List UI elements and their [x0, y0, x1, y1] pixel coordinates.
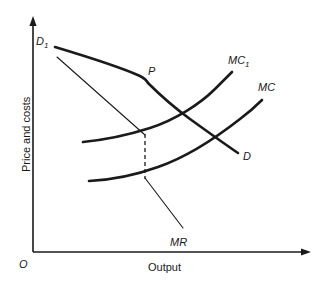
curve-label-d1-text: D	[36, 35, 44, 47]
curve-label-mc1: MC1	[228, 55, 250, 69]
x-axis-title: Output	[148, 262, 181, 273]
point-label-p: P	[148, 66, 155, 77]
demand-lower-curve	[148, 83, 238, 153]
curve-label-d1-subscript: 1	[44, 41, 48, 50]
x-axis-arrow-icon	[301, 248, 311, 255]
demand-upper-curve	[55, 47, 148, 83]
curve-label-mc1-subscript: 1	[245, 60, 249, 69]
y-axis-arrow-icon	[29, 16, 36, 26]
marginal-cost-1-curve	[83, 72, 232, 142]
kinked-demand-curve-figure: D1 P MC1 MC D MR O Output Price and cost…	[0, 0, 325, 288]
diagram-canvas	[0, 0, 325, 288]
marginal-cost-curve	[89, 100, 262, 181]
marginal-revenue-upper-line	[57, 57, 145, 135]
y-axis-title: Price and costs	[21, 97, 32, 172]
curve-label-d: D	[243, 151, 251, 162]
origin-label: O	[19, 259, 28, 270]
curve-label-d1: D1	[36, 36, 48, 50]
curve-label-mc1-text: MC	[228, 54, 245, 66]
curve-label-mc: MC	[258, 82, 275, 93]
curve-label-mr: MR	[170, 237, 187, 248]
marginal-revenue-lower-line	[145, 178, 183, 228]
